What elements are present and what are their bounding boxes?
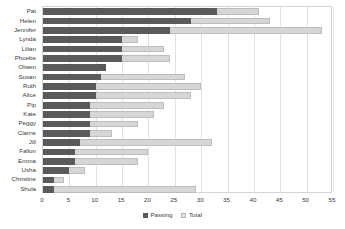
category-label: Jill — [29, 138, 36, 145]
bar-passing — [43, 111, 90, 118]
bar-row — [43, 64, 331, 71]
bar-row — [43, 186, 331, 193]
bar-passing — [43, 83, 96, 90]
bar-row — [43, 121, 331, 128]
bar-passing — [43, 18, 191, 25]
plot-area — [42, 6, 332, 193]
bar-passing — [43, 64, 106, 71]
bar-passing — [43, 74, 101, 81]
bar-passing — [43, 92, 96, 99]
value-axis-tick-label: 45 — [276, 195, 283, 204]
bar-passing — [43, 46, 122, 53]
value-axis-tick-label: 35 — [223, 195, 230, 204]
bar-row — [43, 149, 331, 156]
bar-row — [43, 83, 331, 90]
bar-passing — [43, 121, 90, 128]
chart-legend: Passing Total — [0, 211, 345, 219]
bar-row — [43, 8, 331, 15]
category-label: Ruth — [23, 82, 36, 89]
legend-item-passing: Passing — [143, 211, 173, 219]
category-label: Peggy — [18, 119, 36, 126]
category-axis-labels: PatHelenJenniferLyndaLilianPhoebeOlwenSu… — [0, 6, 39, 193]
bar-row — [43, 158, 331, 165]
category-label: Alice — [23, 91, 36, 98]
bar-rows — [43, 7, 331, 192]
category-label: Susan — [18, 73, 36, 80]
value-axis-tick-label: 30 — [197, 195, 204, 204]
value-axis-tick-label: 20 — [144, 195, 151, 204]
bar-passing — [43, 55, 122, 62]
value-axis-tick-label: 55 — [329, 195, 336, 204]
legend-item-total: Total — [181, 211, 202, 219]
category-label: Lynda — [19, 35, 36, 42]
value-axis-ticks: 0510152025303540455055 — [42, 195, 332, 207]
value-axis-tick-label: 40 — [249, 195, 256, 204]
bar-row — [43, 102, 331, 109]
bar-passing — [43, 27, 170, 34]
category-label: Lilian — [22, 45, 36, 52]
value-axis-tick-label: 0 — [40, 195, 43, 204]
bar-row — [43, 111, 331, 118]
category-label: Pip — [27, 101, 36, 108]
bar-passing — [43, 102, 90, 109]
bar-row — [43, 139, 331, 146]
value-axis-tick-label: 15 — [118, 195, 125, 204]
gridline — [333, 7, 334, 192]
bar-passing — [43, 177, 54, 184]
bar-row — [43, 92, 331, 99]
bar-passing — [43, 8, 217, 15]
bar-row — [43, 130, 331, 137]
legend-label-total: Total — [189, 211, 202, 219]
category-label: Shula — [20, 185, 36, 192]
category-label: Fallon — [19, 147, 36, 154]
category-label: Kate — [23, 110, 36, 117]
value-axis-tick-label: 50 — [302, 195, 309, 204]
category-label: Usha — [22, 166, 36, 173]
bar-passing — [43, 139, 80, 146]
bar-row — [43, 177, 331, 184]
category-label: Jennifer — [14, 26, 36, 33]
category-label: Christine — [12, 175, 36, 182]
bar-passing — [43, 149, 75, 156]
bar-chart: PatHelenJenniferLyndaLilianPhoebeOlwenSu… — [0, 0, 345, 229]
bar-passing — [43, 36, 122, 43]
bar-row — [43, 18, 331, 25]
bar-row — [43, 36, 331, 43]
bar-passing — [43, 167, 69, 174]
category-label: Phoebe — [15, 54, 36, 61]
value-axis-tick-label: 10 — [91, 195, 98, 204]
category-label: Helen — [20, 17, 36, 24]
bar-passing — [43, 158, 75, 165]
value-axis-tick-label: 25 — [170, 195, 177, 204]
total-swatch-icon — [181, 213, 186, 218]
bar-row — [43, 74, 331, 81]
category-label: Emma — [18, 157, 36, 164]
bar-row — [43, 55, 331, 62]
category-label: Clarrie — [18, 129, 36, 136]
passing-swatch-icon — [143, 213, 148, 218]
bar-passing — [43, 186, 54, 193]
bar-row — [43, 46, 331, 53]
bar-passing — [43, 130, 90, 137]
bar-row — [43, 167, 331, 174]
bar-total — [43, 186, 196, 193]
category-label: Pat — [27, 7, 36, 14]
bar-row — [43, 27, 331, 34]
category-label: Olwen — [18, 63, 36, 70]
value-axis-tick-label: 5 — [67, 195, 70, 204]
legend-label-passing: Passing — [150, 211, 172, 219]
